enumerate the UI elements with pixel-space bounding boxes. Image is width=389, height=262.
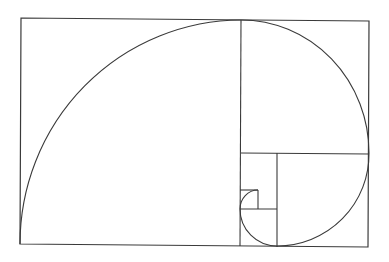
golden-spiral-diagram: [0, 0, 389, 262]
background: [0, 0, 389, 262]
